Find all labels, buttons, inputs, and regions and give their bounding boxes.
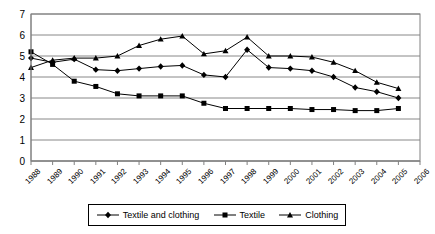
data-point <box>223 48 229 53</box>
line-chart: 01234567 1988198919901991199219931994199… <box>0 0 435 234</box>
legend-label: Textile and clothing <box>123 210 200 220</box>
data-point <box>50 62 55 67</box>
data-point <box>374 79 380 84</box>
legend-label: Textile <box>240 210 266 220</box>
y-tick-label: 7 <box>19 9 25 20</box>
data-point <box>331 74 337 80</box>
data-point <box>179 33 185 38</box>
y-tick-label: 0 <box>19 156 25 167</box>
triangle-marker-icon <box>278 209 302 221</box>
legend-item-textile-and-clothing: Textile and clothing <box>96 209 200 221</box>
data-point <box>396 106 401 111</box>
data-point <box>158 63 164 69</box>
data-point <box>115 91 120 96</box>
y-tick-label: 4 <box>19 72 25 83</box>
gridlines <box>31 14 420 161</box>
data-series-layer <box>28 33 401 113</box>
data-point <box>201 101 206 106</box>
data-point <box>93 84 98 89</box>
legend-item-textile: Textile <box>213 209 266 221</box>
data-point <box>245 106 250 111</box>
data-point <box>93 66 99 72</box>
x-axis-ticks <box>31 161 420 165</box>
plot-area: 01234567 <box>0 0 435 234</box>
data-point <box>180 93 185 98</box>
data-point <box>287 65 293 71</box>
y-tick-label: 2 <box>19 114 25 125</box>
data-point <box>137 93 142 98</box>
data-point <box>353 108 358 113</box>
diamond-marker-icon <box>96 209 120 221</box>
y-tick-label: 3 <box>19 93 25 104</box>
data-point <box>179 62 185 68</box>
legend-item-clothing: Clothing <box>278 209 338 221</box>
y-axis-labels: 01234567 <box>19 9 25 167</box>
y-tick-label: 6 <box>19 30 25 41</box>
data-point <box>309 107 314 112</box>
y-tick-label: 5 <box>19 51 25 62</box>
data-point <box>266 106 271 111</box>
data-point <box>374 89 380 95</box>
data-point <box>72 79 77 84</box>
data-point <box>374 108 379 113</box>
plot-border <box>31 14 420 161</box>
square-marker-icon <box>213 209 237 221</box>
data-point <box>331 107 336 112</box>
chart-legend: Textile and clothingTextileClothing <box>88 204 346 226</box>
data-point <box>136 65 142 71</box>
series-textile-and-clothing <box>28 47 401 102</box>
series-textile <box>29 49 401 113</box>
data-point <box>158 93 163 98</box>
data-point <box>395 95 401 101</box>
data-point <box>114 68 120 74</box>
data-point <box>223 106 228 111</box>
data-point <box>352 84 358 90</box>
legend-label: Clothing <box>305 210 338 220</box>
y-tick-label: 1 <box>19 135 25 146</box>
data-point <box>288 106 293 111</box>
data-point <box>309 68 315 74</box>
